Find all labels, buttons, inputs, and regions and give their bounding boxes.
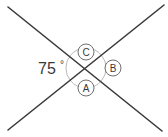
circled-label-b: B xyxy=(105,60,121,76)
label-c-text: C xyxy=(82,47,89,58)
circled-label-c: C xyxy=(78,44,94,60)
diagram-canvas: 75 ° C B A xyxy=(0,0,168,137)
circled-label-a: A xyxy=(78,80,94,96)
degree-symbol: ° xyxy=(60,59,64,70)
arc-left-icon xyxy=(66,55,71,80)
label-a-text: A xyxy=(83,83,90,94)
geometry-figure: 75 ° C B A xyxy=(0,0,168,137)
line-ascending xyxy=(8,5,164,130)
label-b-text: B xyxy=(110,63,117,74)
angle-measure-value: 75 xyxy=(38,60,56,77)
